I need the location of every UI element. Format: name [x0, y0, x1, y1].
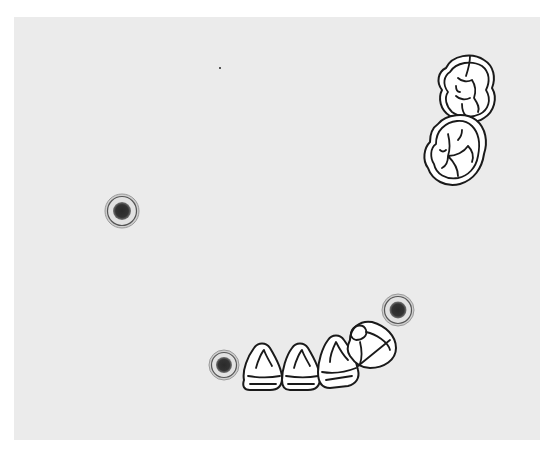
lower-tooth-2[interactable] — [282, 344, 320, 391]
speck — [219, 67, 221, 69]
upper-molar-1[interactable] — [439, 56, 495, 123]
upper-molar-2[interactable] — [424, 115, 486, 185]
lower-tooth-4[interactable] — [348, 322, 396, 368]
implant-marker-right[interactable] — [382, 294, 414, 326]
implant-marker-left[interactable] — [105, 194, 139, 228]
lower-tooth-1[interactable] — [243, 344, 282, 391]
implant-marker-lower[interactable] — [209, 350, 239, 380]
dental-chart — [0, 0, 554, 455]
